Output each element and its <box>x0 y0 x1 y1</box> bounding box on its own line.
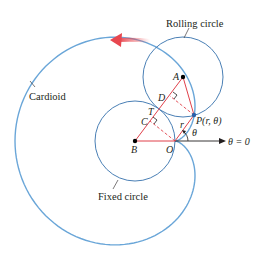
point-C-label: C <box>141 116 148 127</box>
angle-theta-label: θ <box>192 127 197 138</box>
point-A-dot <box>181 75 185 79</box>
cardioid-label: Cardioid <box>29 91 66 102</box>
point-P-label: P(r, θ) <box>195 115 222 127</box>
radius-r-label: r <box>180 119 184 130</box>
point-B-dot <box>133 139 137 143</box>
point-B-label: B <box>131 144 137 155</box>
fixed-circle-leader <box>113 180 118 189</box>
point-A-label: A <box>172 71 180 82</box>
axis-arrowhead-icon <box>219 138 226 144</box>
perpendicular-dashes <box>150 96 194 141</box>
cardioid-figure: Rolling circle Cardioid Fixed circle A B… <box>0 0 273 264</box>
point-D-label: D <box>157 92 166 103</box>
rolling-circle-leader <box>184 28 189 38</box>
rolling-circle-label: Rolling circle <box>166 18 224 29</box>
polar-axis-label: θ = 0 <box>228 136 250 147</box>
point-O-label: O <box>166 144 173 155</box>
fixed-circle-label: Fixed circle <box>98 191 148 202</box>
direction-arrow-icon <box>110 33 150 47</box>
